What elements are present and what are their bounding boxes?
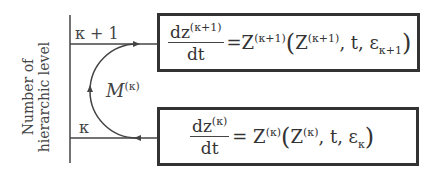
level-lower-label: κ [79, 118, 89, 137]
axis-label-line1: Number of [20, 27, 36, 167]
arrow-icon [133, 41, 140, 47]
fraction-numerator: dz(κ+1) [168, 21, 224, 44]
axis-label-line2: hierarchic level [36, 27, 52, 167]
mapping-superscript: (κ) [124, 80, 139, 93]
arg-z: Z [290, 126, 303, 147]
fraction-numerator: dz(κ) [190, 115, 229, 138]
rhs-func: =Z [227, 32, 255, 53]
arg-z-sup: (κ) [303, 126, 318, 139]
arg-rest: , t, ε [339, 32, 378, 53]
arrow-icon [134, 135, 141, 141]
arrow-icon [87, 85, 93, 92]
num-text: dz [192, 115, 212, 135]
num-text: dz [170, 21, 190, 41]
equation-rhs: = Z(κ)(Z(κ), t, εκ) [232, 123, 374, 151]
arg-z: Z [295, 32, 308, 53]
rhs-func-sup: (κ) [266, 126, 281, 139]
mapping-label: M(κ) [106, 80, 140, 101]
rhs-func: = Z [232, 126, 265, 147]
rhs-func-sup: (κ+1) [254, 32, 286, 45]
num-sup: (κ) [212, 115, 227, 128]
lower-equation-box: dz(κ) dt = Z(κ)(Z(κ), t, εκ) [157, 107, 419, 166]
derivative-fraction: dz(κ) dt [190, 115, 229, 159]
level-upper-label: κ + 1 [75, 24, 119, 43]
arg-sub: κ+1 [379, 43, 402, 56]
arg-rest: , t, ε [318, 126, 357, 147]
arg-z-sup: (κ+1) [308, 32, 340, 45]
arg-sub: κ [358, 137, 365, 150]
fraction-denominator: dt [201, 137, 219, 158]
mapping-symbol: M [106, 80, 124, 101]
upper-equation-box: dz(κ+1) dt =Z(κ+1)(Z(κ+1), t, εκ+1) [157, 13, 420, 72]
equation-rhs: =Z(κ+1)(Z(κ+1), t, εκ+1) [227, 29, 412, 57]
derivative-fraction: dz(κ+1) dt [168, 21, 224, 65]
axis-label: Number of hierarchic level [20, 27, 60, 167]
num-sup: (κ+1) [190, 21, 222, 34]
fraction-denominator: dt [187, 43, 205, 64]
